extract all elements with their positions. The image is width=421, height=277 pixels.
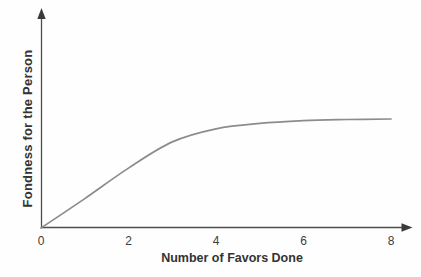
chart-canvas — [0, 0, 421, 277]
x-axis-label: Number of Favors Done — [52, 251, 412, 265]
x-axis-arrow-icon — [402, 223, 413, 232]
y-axis-label: Fondness for the Person — [20, 18, 35, 240]
fondness-curve — [41, 119, 391, 228]
chart-figure: Fondness for the Person Number of Favors… — [0, 0, 421, 277]
y-axis-arrow-icon — [37, 8, 45, 19]
